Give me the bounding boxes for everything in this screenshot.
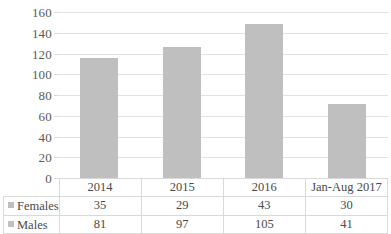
bar[interactable] (328, 104, 366, 178)
table-cell-value: 81 (59, 215, 141, 234)
bars-layer (58, 12, 388, 178)
y-axis-tick-label: 100 (0, 68, 52, 81)
y-axis-tick-label: 40 (0, 131, 52, 144)
data-table: 201420152016Jan-Aug 2017Females35294330M… (3, 178, 388, 234)
bar[interactable] (80, 58, 118, 178)
table-column-header: 2016 (223, 179, 305, 197)
table-cell-value: 105 (223, 215, 305, 234)
table-cell-value: 30 (305, 197, 387, 216)
table-header-row: 201420152016Jan-Aug 2017 (4, 179, 388, 197)
bar-slot (306, 12, 389, 178)
legend-label: Males (17, 217, 48, 231)
table-column-header: 2015 (141, 179, 223, 197)
bar-slot (141, 12, 224, 178)
bar-slot (223, 12, 306, 178)
legend-swatch-icon (8, 221, 14, 227)
y-axis: 160140120100806040200 (0, 0, 52, 180)
legend-entry-females: Females (4, 197, 60, 216)
table-cell-value: 29 (141, 197, 223, 216)
legend-swatch-icon (8, 202, 14, 208)
table-corner-cell (4, 179, 60, 197)
stacked-bar-chart-with-data-table: 160140120100806040200 201420152016Jan-Au… (0, 0, 391, 234)
bar-slot (58, 12, 141, 178)
table-row: Males819710541 (4, 215, 388, 234)
table-cell-value: 43 (223, 197, 305, 216)
y-axis-tick-label: 20 (0, 151, 52, 164)
y-axis-tick-label: 120 (0, 48, 52, 61)
y-axis-tick-label: 80 (0, 89, 52, 102)
table-row: Females35294330 (4, 197, 388, 216)
table-cell-value: 35 (59, 197, 141, 216)
y-axis-tick-label: 60 (0, 110, 52, 123)
legend-entry-males: Males (4, 215, 60, 234)
table-column-header: 2014 (59, 179, 141, 197)
y-axis-tick-label: 140 (0, 27, 52, 40)
bar[interactable] (163, 47, 201, 178)
table-cell-value: 97 (141, 215, 223, 234)
y-axis-tick-label: 160 (0, 6, 52, 19)
plot-area (58, 12, 388, 178)
table-cell-value: 41 (305, 215, 387, 234)
table-column-header: Jan-Aug 2017 (305, 179, 387, 197)
legend-label: Females (17, 199, 59, 213)
bar[interactable] (245, 24, 283, 178)
